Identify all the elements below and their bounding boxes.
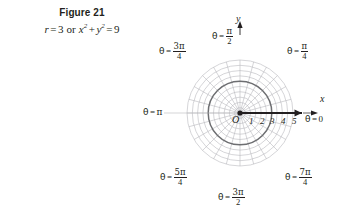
theta-symbol: θ: [218, 192, 224, 202]
tick-label-4: 4: [281, 116, 286, 126]
angle-label-theta-7pi-4: θ=7π4: [285, 168, 312, 188]
equals-sign: =: [166, 172, 174, 182]
angle-value: 0: [319, 114, 324, 124]
equation-rhs: 9: [114, 23, 120, 35]
angle-value: π: [157, 107, 163, 117]
angle-fraction: 7π4: [299, 168, 312, 188]
theta-symbol: θ: [159, 46, 165, 56]
fraction-denominator: 2: [226, 37, 234, 46]
polar-grid-svg: [150, 0, 349, 224]
angle-label-theta-3pi-2: θ=3π2: [218, 188, 245, 208]
tick-label-3: 3: [270, 116, 275, 126]
equals-sign: =: [311, 114, 319, 124]
equation-equals-2: =: [105, 23, 114, 35]
angle-fraction: 3π2: [232, 188, 245, 208]
equals-sign: =: [291, 172, 299, 182]
tick-label-1: 1: [249, 116, 254, 126]
equation-r-value: 3: [58, 23, 64, 35]
theta-symbol: θ: [305, 114, 311, 124]
y-axis-label: y: [236, 13, 240, 24]
equals-sign: =: [149, 107, 157, 117]
fraction-denominator: 4: [299, 178, 312, 187]
angle-fraction: π2: [226, 27, 234, 47]
fraction-numerator: π: [301, 42, 309, 52]
fraction-numerator: π: [226, 27, 234, 37]
equals-sign: =: [293, 46, 301, 56]
fraction-numerator: 3π: [232, 188, 245, 198]
theta-symbol: θ: [160, 172, 166, 182]
fraction-denominator: 4: [301, 52, 309, 61]
fraction-numerator: 5π: [174, 168, 187, 178]
fraction-numerator: 7π: [299, 168, 312, 178]
equation-equals-1: =: [49, 23, 58, 35]
equation-conjunction: or: [67, 23, 76, 35]
theta-symbol: θ: [212, 31, 218, 41]
angle-fraction: 3π4: [173, 42, 186, 62]
fraction-numerator: 3π: [173, 42, 186, 52]
fraction-denominator: 4: [174, 178, 187, 187]
equals-sign: =: [165, 46, 173, 56]
fraction-denominator: 2: [232, 198, 245, 207]
figure-caption: Figure 21 r=3 or x2+y2=9: [8, 6, 156, 37]
fraction-denominator: 4: [173, 52, 186, 61]
angle-fraction: 5π4: [174, 168, 187, 188]
angle-label-theta-pi: θ=π: [143, 108, 163, 117]
angle-label-theta-pi-4: θ=π4: [287, 42, 308, 62]
theta-symbol: θ: [287, 46, 293, 56]
origin-label: O: [232, 114, 239, 125]
tick-label-2: 2: [260, 116, 265, 126]
figure-equation: r=3 or x2+y2=9: [8, 19, 156, 37]
theta-symbol: θ: [143, 107, 149, 117]
equals-sign: =: [218, 31, 226, 41]
angle-fraction: π4: [301, 42, 309, 62]
tick-label-5: 5: [292, 116, 297, 126]
angle-label-theta-3pi-4: θ=3π4: [159, 42, 186, 62]
theta-symbol: θ: [285, 172, 291, 182]
equation-plus: +: [87, 23, 96, 35]
figure-number: Figure 21: [8, 6, 156, 19]
x-axis-label: x: [320, 93, 324, 104]
angle-label-theta-pi-2: θ=π2: [212, 27, 233, 47]
angle-label-theta-0: θ=0: [305, 115, 323, 124]
polar-plot-figure: x y O 1 2 3 4 5 θ=0 θ=π4 θ=π2 θ=3π4 θ=π …: [150, 0, 349, 224]
equals-sign: =: [224, 192, 232, 202]
angle-label-theta-5pi-4: θ=5π4: [160, 168, 187, 188]
